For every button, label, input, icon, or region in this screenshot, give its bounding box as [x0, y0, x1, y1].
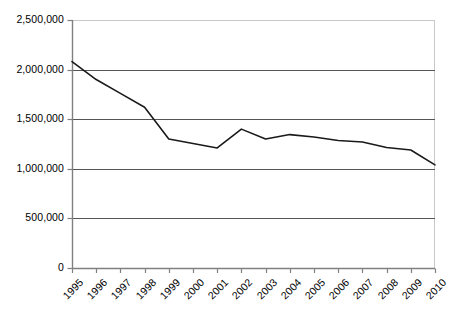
- y-axis-tick-label: 0: [58, 261, 64, 273]
- y-axis-tick-label: 2,000,000: [16, 63, 64, 75]
- y-axis-tick-label: 1,000,000: [16, 162, 64, 174]
- y-axis-tick-label: 1,500,000: [16, 112, 64, 124]
- line-chart: 0500,0001,000,0001,500,0002,000,0002,500…: [0, 0, 456, 309]
- chart-canvas: [0, 0, 456, 309]
- y-axis-tick-label: 2,500,000: [16, 13, 64, 25]
- plot-area: [72, 20, 435, 268]
- y-axis-tick-label: 500,000: [25, 211, 64, 223]
